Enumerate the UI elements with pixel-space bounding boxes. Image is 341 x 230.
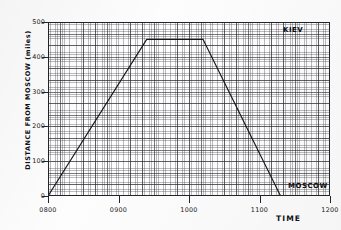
y-axis: DISTANCE FROM MOSCOW (miles) 500 400 300… <box>0 0 45 230</box>
plot-area <box>48 22 330 196</box>
x-tick-mark <box>260 196 261 203</box>
x-tick-label-1200: 1200 <box>321 206 338 214</box>
x-tick-label-1000: 1000 <box>180 206 197 214</box>
x-tick-mark <box>330 196 331 203</box>
x-tick-label-0900: 0900 <box>110 206 127 214</box>
x-tick-mark <box>189 196 190 203</box>
annotation-moscow: MOSCOW <box>288 182 328 190</box>
x-tick-label-0800: 0800 <box>39 206 56 214</box>
x-tick-mark <box>48 196 49 203</box>
x-tick-label-1100: 1100 <box>251 206 268 214</box>
annotation-kiev: KIEV <box>283 26 303 34</box>
y-axis-title: DISTANCE FROM MOSCOW (miles) <box>24 25 32 175</box>
data-line <box>48 22 330 196</box>
x-tick-mark <box>119 196 120 203</box>
x-axis-title: TIME <box>276 214 301 223</box>
graph-screenshot: DISTANCE FROM MOSCOW (miles) 500 400 300… <box>0 0 341 230</box>
